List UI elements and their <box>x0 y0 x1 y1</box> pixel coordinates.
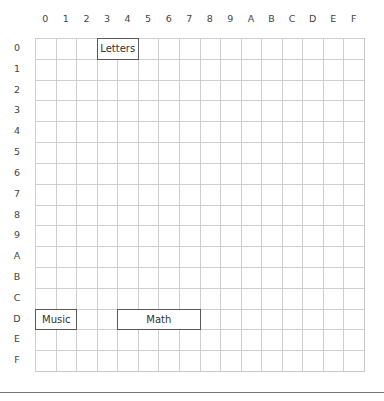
row-label: 3 <box>10 100 24 121</box>
row-label: B <box>10 267 24 288</box>
grid-hline <box>35 142 364 143</box>
grid-hline <box>35 246 364 247</box>
block-letters: Letters <box>97 38 139 60</box>
row-label: E <box>10 329 24 350</box>
column-label: 2 <box>76 13 97 24</box>
grid-hline <box>35 100 364 101</box>
row-label: 7 <box>10 184 24 205</box>
column-label: A <box>241 13 262 24</box>
column-label: 5 <box>138 13 159 24</box>
column-label: E <box>323 13 344 24</box>
grid-hline <box>35 267 364 268</box>
column-label: 3 <box>97 13 118 24</box>
column-label: 7 <box>179 13 200 24</box>
grid-hline <box>35 288 364 289</box>
row-label: C <box>10 288 24 309</box>
row-label: F <box>10 350 24 371</box>
column-label: D <box>302 13 323 24</box>
column-label: F <box>343 13 364 24</box>
column-label: 9 <box>220 13 241 24</box>
row-label: A <box>10 246 24 267</box>
footer-divider <box>0 392 384 393</box>
row-label: 5 <box>10 142 24 163</box>
column-label: 0 <box>35 13 56 24</box>
grid-hline <box>35 38 364 39</box>
column-label: B <box>261 13 282 24</box>
grid-hline <box>35 80 364 81</box>
column-label: 1 <box>56 13 77 24</box>
column-label: 8 <box>200 13 221 24</box>
grid-hline <box>35 59 364 60</box>
grid-hline <box>35 205 364 206</box>
row-label: 6 <box>10 163 24 184</box>
column-label: 4 <box>117 13 138 24</box>
block-math: Math <box>117 309 200 331</box>
column-label: 6 <box>158 13 179 24</box>
row-label: 2 <box>10 80 24 101</box>
row-label: 9 <box>10 225 24 246</box>
row-label: 0 <box>10 38 24 59</box>
grid-hline <box>35 184 364 185</box>
column-label: C <box>282 13 303 24</box>
grid-hline <box>35 225 364 226</box>
row-label: 8 <box>10 205 24 226</box>
row-label: D <box>10 309 24 330</box>
grid-hline <box>35 163 364 164</box>
grid-hline <box>35 350 364 351</box>
row-label: 4 <box>10 121 24 142</box>
grid: LettersMusicMath <box>35 38 365 372</box>
row-label: 1 <box>10 59 24 80</box>
block-music: Music <box>35 309 77 331</box>
grid-hline <box>35 121 364 122</box>
